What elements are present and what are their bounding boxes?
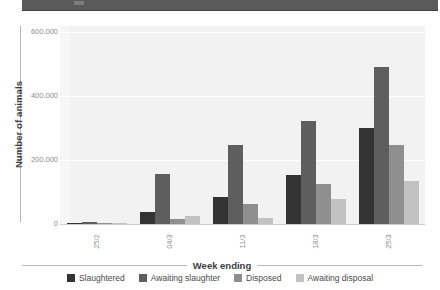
y-axis-tick-label: 0 — [16, 220, 58, 228]
bar — [374, 67, 389, 224]
legend-label: Disposed — [246, 273, 281, 283]
x-axis-tick-label-text: 18/3 — [311, 234, 320, 249]
bar — [243, 204, 258, 224]
y-axis-tick-label: 400,000 — [16, 92, 58, 100]
bar — [286, 175, 301, 224]
legend-swatch — [67, 274, 75, 282]
legend-item[interactable]: Slaughtered — [67, 273, 125, 283]
x-axis-tick-labels: 25/204/311/318/325/3 — [60, 225, 425, 261]
legend-item[interactable]: Awaiting slaughter — [139, 273, 220, 283]
bar-group — [286, 26, 346, 224]
chart-legend: SlaughteredAwaiting slaughterDisposedAwa… — [0, 271, 440, 285]
bar — [185, 216, 200, 224]
x-axis-tick-label: 18/3 — [296, 227, 336, 248]
bar — [140, 212, 155, 224]
plot-area — [60, 26, 425, 224]
bar-group — [359, 26, 419, 224]
window-title-bar — [22, 0, 438, 11]
bar-group — [213, 26, 273, 224]
x-axis-tick-label-text: 04/3 — [165, 234, 174, 249]
bar-chart-figure: Number of animals 0200,000400,000600,000… — [0, 12, 440, 290]
x-axis-tick-label: 11/3 — [223, 227, 263, 248]
legend-swatch — [234, 274, 242, 282]
x-axis-tick-label: 25/3 — [369, 227, 409, 248]
bar — [213, 197, 228, 224]
x-axis-tick-label-text: 25/3 — [384, 234, 393, 249]
y-axis-tick-labels: 0200,000400,000600,000 — [14, 12, 58, 232]
x-axis-tick-label-text: 25/2 — [92, 234, 101, 249]
legend-label: Awaiting slaughter — [151, 273, 220, 283]
x-axis-tick-label: 25/2 — [77, 227, 117, 248]
bar — [404, 181, 419, 224]
y-axis-tick-label: 600,000 — [16, 28, 58, 36]
bar — [228, 145, 243, 224]
bar — [316, 184, 331, 224]
x-axis-tick-label: 04/3 — [150, 227, 190, 248]
x-axis-title-rule-left — [22, 265, 187, 266]
x-axis-tick-label-text: 11/3 — [238, 234, 247, 248]
legend-swatch — [296, 274, 304, 282]
legend-swatch — [139, 274, 147, 282]
title-bar-notch — [74, 1, 84, 5]
bar-group — [140, 26, 200, 224]
legend-label: Awaiting disposal — [308, 273, 374, 283]
x-axis-title: Week ending — [22, 258, 422, 272]
legend-label: Slaughtered — [79, 273, 125, 283]
x-axis-title-text: Week ending — [193, 260, 251, 271]
bar — [331, 199, 346, 224]
bar — [359, 128, 374, 224]
legend-item[interactable]: Disposed — [234, 273, 281, 283]
legend-item[interactable]: Awaiting disposal — [296, 273, 374, 283]
bar — [301, 121, 316, 224]
bar — [155, 174, 170, 224]
y-axis-tick-label: 200,000 — [16, 156, 58, 164]
x-axis-title-rule-right — [257, 265, 422, 266]
bar — [389, 145, 404, 224]
bar-group — [67, 26, 127, 224]
